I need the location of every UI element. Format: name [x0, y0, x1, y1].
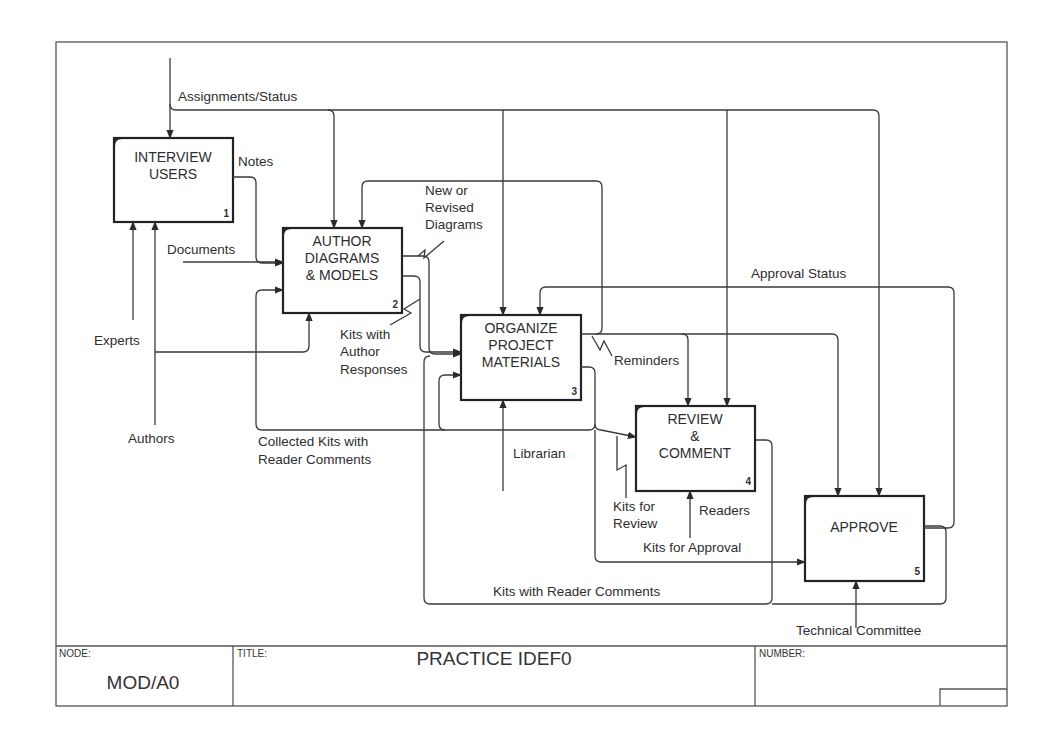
activity-number: 5	[914, 566, 920, 577]
arrow-documents: Documents	[167, 242, 283, 262]
arrow-librarian: Librarian	[503, 400, 566, 491]
activity-box-5[interactable]: APPROVE 5	[805, 496, 924, 581]
activity-label-line: PROJECT	[488, 337, 554, 353]
activity-label-line: INTERVIEW	[134, 149, 212, 165]
arrow-label: Librarian	[513, 446, 566, 461]
arrow-label: Diagrams	[425, 217, 483, 232]
number-label: NUMBER:	[759, 648, 805, 659]
activity-box-1[interactable]: INTERVIEW USERS 1	[114, 138, 233, 222]
arrow-label: Notes	[238, 154, 274, 169]
node-value: MOD/A0	[107, 672, 180, 693]
arrow-notes: Notes	[233, 154, 283, 263]
activity-label-line: ORGANIZE	[484, 320, 557, 336]
arrow-readers: Readers	[690, 491, 750, 538]
arrow-label: Kits with Reader Comments	[493, 584, 661, 599]
activity-label-line: &	[690, 428, 700, 444]
activity-number: 1	[223, 208, 229, 219]
arrow-label: New or	[425, 183, 468, 198]
activity-label-line: COMMENT	[659, 445, 732, 461]
arrow-label: Author	[340, 344, 380, 359]
activity-label-line: APPROVE	[830, 519, 898, 535]
arrow-label: Kits for Approval	[643, 540, 741, 555]
activity-box-3[interactable]: ORGANIZE PROJECT MATERIALS 3	[461, 315, 581, 400]
activity-label-line: USERS	[149, 166, 197, 182]
arrow-technical-committee: Technical Committee	[796, 581, 921, 638]
activity-label-line: MATERIALS	[482, 354, 560, 370]
activity-box-2[interactable]: AUTHOR DIAGRAMS & MODELS 2	[283, 228, 402, 313]
arrow-label: Kits for	[613, 499, 656, 514]
activity-label-line: & MODELS	[306, 267, 378, 283]
arrow-label: Experts	[94, 333, 140, 348]
activity-label-line: REVIEW	[667, 411, 723, 427]
node-label: NODE:	[59, 648, 91, 659]
arrow-experts: Experts	[94, 222, 140, 348]
arrow-label: Reader Comments	[258, 452, 372, 467]
activity-number: 4	[745, 476, 751, 487]
arrow-label: Readers	[699, 503, 750, 518]
activity-number: 3	[571, 386, 577, 397]
arrow-label: Assignments/Status	[178, 89, 298, 104]
title-value: PRACTICE IDEF0	[416, 648, 571, 669]
activity-box-4[interactable]: REVIEW & COMMENT 4	[636, 406, 755, 491]
title-label: TITLE:	[237, 648, 267, 659]
arrow-label: Kits with	[340, 327, 390, 342]
title-block: NODE: MOD/A0 TITLE: PRACTICE IDEF0 NUMBE…	[59, 648, 805, 693]
arrow-label: Revised	[425, 200, 474, 215]
arrow-label: Review	[613, 516, 658, 531]
activity-label-line: DIAGRAMS	[305, 250, 380, 266]
activity-label-line: AUTHOR	[312, 233, 371, 249]
arrow-label: Responses	[340, 362, 408, 377]
arrow-label: Authors	[128, 431, 175, 446]
idef0-diagram: INTERVIEW USERS 1 AUTHOR DIAGRAMS & MODE…	[0, 0, 1064, 744]
arrow-label: Technical Committee	[796, 623, 921, 638]
activity-number: 2	[392, 299, 398, 310]
arrow-label: Approval Status	[751, 266, 847, 281]
arrow-label: Reminders	[614, 353, 680, 368]
arrow-label: Documents	[167, 242, 236, 257]
arrow-label: Collected Kits with	[258, 434, 368, 449]
